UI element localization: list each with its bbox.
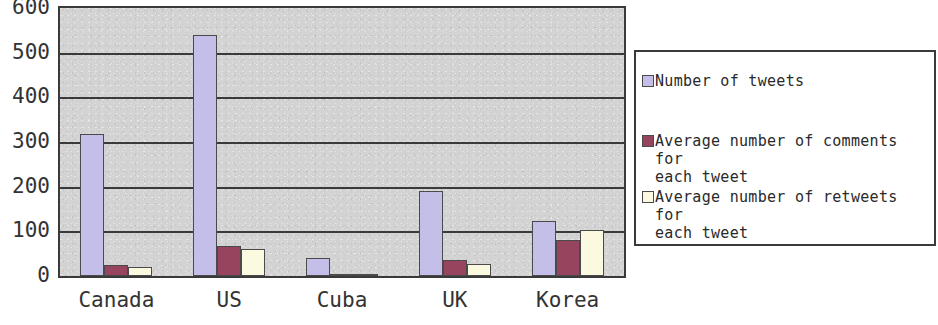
legend-entry[interactable]: Average number of retweets for each twee…	[642, 188, 934, 242]
bar	[354, 274, 378, 276]
bar	[217, 246, 241, 276]
legend-swatch-icon	[642, 135, 654, 147]
y-tick-label: 400	[12, 86, 50, 107]
bar-group	[193, 8, 265, 276]
y-axis: 6005004003002001000	[0, 0, 56, 290]
bar	[330, 274, 354, 276]
bar	[556, 240, 580, 276]
y-tick-label: 600	[12, 0, 50, 18]
x-tick-label: UK	[442, 288, 467, 312]
y-tick-label: 300	[12, 131, 50, 152]
bar	[467, 264, 491, 277]
bar-group	[306, 8, 378, 276]
bar	[128, 267, 152, 276]
legend-swatch-icon	[642, 75, 654, 87]
chart-legend: Number of tweetsAverage number of commen…	[634, 50, 936, 246]
legend-swatch-icon	[642, 191, 654, 203]
x-tick-label: Cuba	[317, 288, 368, 312]
x-tick-label: Korea	[536, 288, 599, 312]
bar	[306, 258, 330, 276]
legend-label: Average number of comments for each twee…	[655, 132, 934, 186]
legend-label: Average number of retweets for each twee…	[655, 188, 934, 242]
bar	[443, 260, 467, 276]
y-tick-label: 500	[12, 42, 50, 63]
bar-group	[419, 8, 491, 276]
bar	[104, 265, 128, 276]
bar	[532, 221, 556, 276]
x-tick-label: US	[217, 288, 242, 312]
legend-entry[interactable]: Number of tweets	[642, 72, 804, 90]
y-tick-label: 0	[37, 265, 50, 286]
legend-entry[interactable]: Average number of comments for each twee…	[642, 132, 934, 186]
y-tick-label: 100	[12, 220, 50, 241]
legend-label: Number of tweets	[655, 72, 804, 90]
bar	[419, 191, 443, 276]
bar	[193, 35, 217, 276]
plot-area	[58, 6, 626, 278]
x-tick-label: Canada	[78, 288, 154, 312]
bar	[241, 249, 265, 276]
bar-group	[80, 8, 152, 276]
x-axis: CanadaUSCubaUKKorea	[58, 284, 626, 324]
bar	[580, 230, 604, 276]
bar-group	[532, 8, 604, 276]
y-tick-label: 200	[12, 176, 50, 197]
bar-chart: 6005004003002001000 CanadaUSCubaUKKorea …	[0, 0, 938, 325]
bar	[80, 134, 104, 276]
